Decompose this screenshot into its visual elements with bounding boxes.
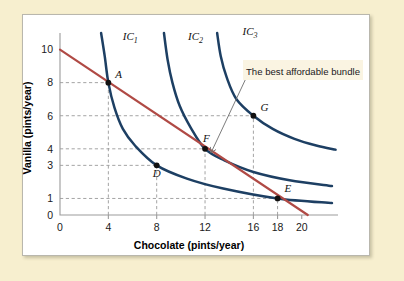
point-label-F: F — [202, 132, 210, 144]
y-tick-label: 10 — [41, 43, 53, 55]
y-tick-label: 8 — [47, 76, 53, 88]
indifference-curve-IC3 — [217, 33, 335, 150]
y-tick-label: 6 — [47, 110, 53, 122]
point-label-E: E — [284, 182, 292, 194]
y-tick-label: 4 — [47, 143, 53, 155]
data-point-F — [202, 146, 208, 152]
indifference-curve-IC1 — [101, 33, 332, 203]
y-tick-label: 0 — [47, 209, 53, 221]
annotation-callout: The best affordable bundle — [243, 60, 363, 80]
curve-label-IC2: IC2 — [187, 30, 203, 45]
curve-label-IC1: IC1 — [122, 30, 138, 45]
x-tick-label: 20 — [296, 221, 308, 233]
y-tick-label: 1 — [47, 192, 53, 204]
y-axis-title: Vanilla (pints/year) — [21, 82, 33, 175]
figure-container: IC1IC2IC3ADFGE0481216182001346810Chocola… — [0, 0, 404, 281]
curve-label-IC3: IC3 — [242, 25, 258, 40]
x-tick-label: 18 — [272, 221, 284, 233]
y-tick-label: 3 — [47, 159, 53, 171]
point-label-D: D — [152, 167, 161, 179]
data-point-G — [250, 113, 256, 119]
x-tick-label: 8 — [154, 221, 160, 233]
annotation-text: The best affordable bundle — [246, 66, 360, 77]
data-point-A — [105, 80, 111, 86]
point-label-A: A — [114, 68, 122, 80]
x-tick-label: 16 — [248, 221, 260, 233]
x-axis-title: Chocolate (pints/year) — [134, 239, 244, 251]
point-label-G: G — [260, 101, 268, 113]
x-tick-label: 12 — [199, 221, 211, 233]
x-tick-label: 4 — [105, 221, 111, 233]
x-tick-label: 0 — [57, 221, 63, 233]
data-point-E — [275, 196, 281, 202]
indifference-curve-chart: IC1IC2IC3ADFGE0481216182001346810Chocola… — [0, 0, 404, 281]
